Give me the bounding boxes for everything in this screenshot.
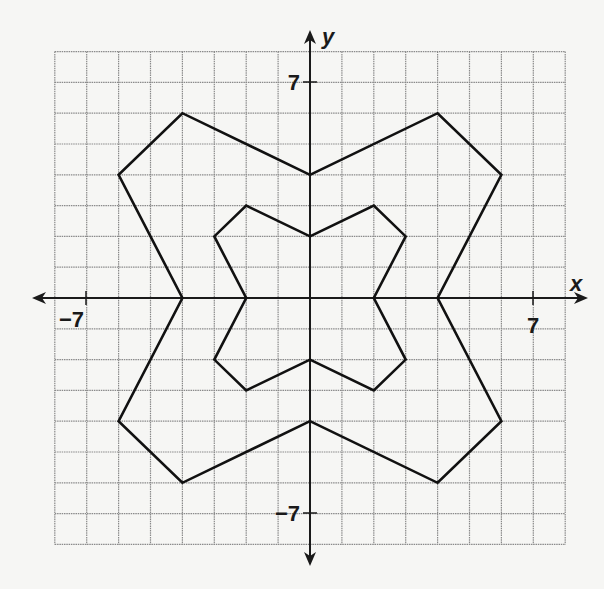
coordinate-plane: 7 −7 −7 7 y x [0, 0, 604, 589]
x-axis-label: x [569, 271, 583, 296]
x-tick-label-neg7: −7 [59, 307, 84, 332]
y-tick-label-7: 7 [288, 70, 300, 95]
x-tick-label-7: 7 [527, 313, 539, 338]
y-tick-label-neg7: −7 [275, 501, 300, 526]
y-axis-label: y [321, 24, 336, 49]
axes: 7 −7 −7 7 y x [32, 24, 588, 566]
